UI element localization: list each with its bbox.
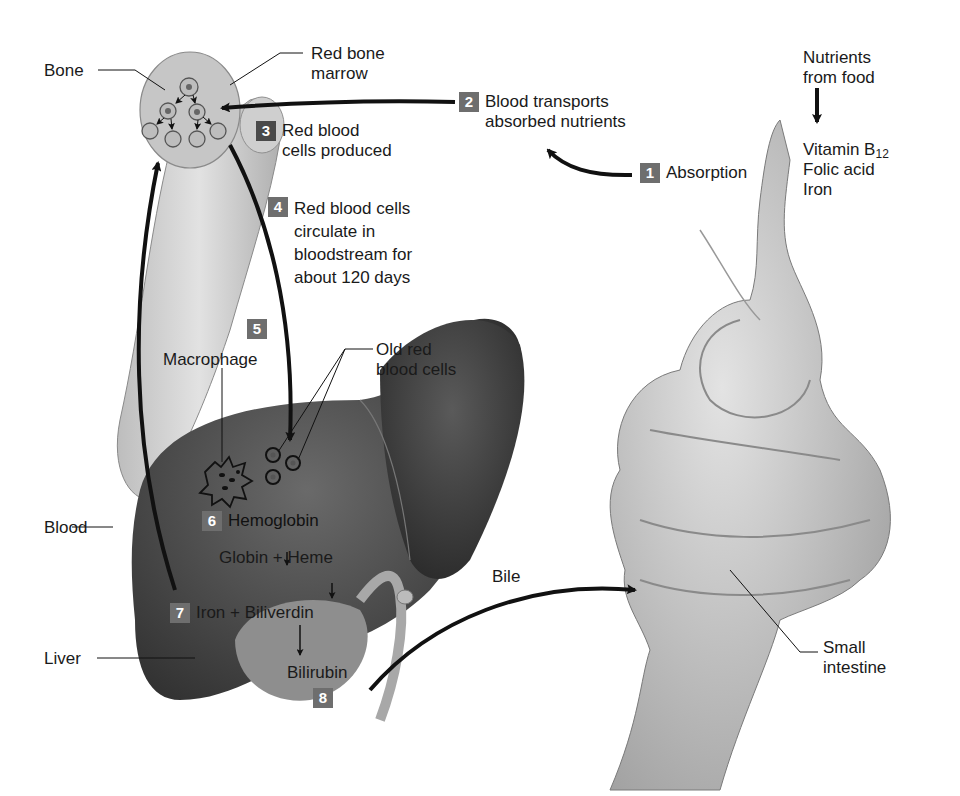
label-bone: Bone	[44, 61, 84, 81]
label-bilirubin: Bilirubin	[287, 663, 347, 683]
step-1: 1Absorption	[640, 163, 747, 183]
label-nutrients-list: Vitamin B12 Folic acid Iron	[803, 140, 889, 200]
label-blood: Blood	[44, 518, 87, 538]
label-red-bone-marrow: Red bone marrow	[311, 44, 385, 84]
arrow-absorption	[548, 150, 632, 175]
label-macrophage: Macrophage	[163, 350, 258, 370]
step-badge-2: 2	[459, 92, 479, 112]
step-badge-3: 3	[256, 121, 276, 141]
step-3: 3 Red blood cells produced	[256, 121, 392, 161]
step-2: 2 Blood transports absorbed nutrients	[459, 92, 626, 132]
step-badge-6: 6	[202, 511, 222, 531]
small-intestine-illustration	[610, 120, 890, 790]
label-globin-heme: Globin + Heme	[219, 548, 333, 568]
step-badge-1: 1	[640, 163, 660, 183]
step-badge-8: 8	[313, 688, 333, 708]
label-bile: Bile	[492, 567, 520, 587]
step-4: 4 Red blood cells circulate in bloodstre…	[268, 197, 412, 289]
label-nutrients-from-food: Nutrients from food	[803, 48, 875, 88]
step-badge-7: 7	[170, 603, 190, 623]
label-old-rbc: Old red blood cells	[376, 340, 456, 380]
step-7: 7Iron + Biliverdin	[170, 603, 314, 623]
label-small-intestine: Small intestine	[823, 638, 886, 678]
step-6: 6Hemoglobin	[202, 511, 319, 531]
leader-marrow	[230, 53, 303, 85]
step-badge-4: 4	[268, 197, 288, 217]
label-liver: Liver	[44, 649, 81, 669]
step-badge-5: 5	[247, 319, 267, 339]
